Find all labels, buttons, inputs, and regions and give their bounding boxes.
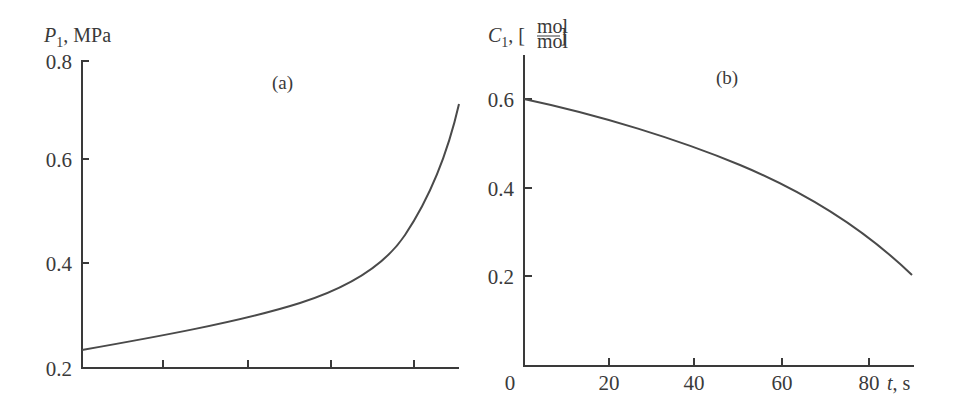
panel-b-curve-c1 [524, 99, 912, 275]
panel-a-label: (a) [272, 72, 293, 94]
panel-a-axes [82, 61, 459, 368]
panel-a-ytick-label: 0.4 [46, 252, 73, 276]
panel-b-xtick-label: 80 [859, 371, 880, 395]
panel-a: P1, MPa 0.8 0.6 0.4 0.2 (a) [43, 24, 459, 381]
panel-b-xtick-label: 60 [772, 371, 793, 395]
panel-b-x-axis-title: t, s [887, 372, 911, 394]
panel-b-xtick-label: 20 [599, 371, 620, 395]
panel-b-ytick-label: 0.4 [488, 177, 515, 201]
panel-a-ytick-label: 0.2 [46, 357, 72, 381]
panel-a-curve-p1 [82, 104, 459, 350]
panel-b-label: (b) [716, 67, 738, 89]
panel-b-xtick-label: 0 [505, 371, 516, 395]
figure: P1, MPa 0.8 0.6 0.4 0.2 (a) C1, [ mol mo… [0, 0, 954, 417]
panel-b-axes [524, 55, 914, 366]
panel-b-ytick-label: 0.6 [488, 88, 514, 112]
panel-b-y-axis-title: C1, [ [488, 24, 525, 50]
panel-b-ytick-label: 0.2 [488, 265, 514, 289]
panel-b: C1, [ mol mol ] 0.6 0.4 0.2 0 20 40 60 8… [488, 15, 914, 395]
panel-b-xtick-label: 40 [684, 371, 705, 395]
panel-a-ytick-label: 0.6 [46, 148, 72, 172]
panel-a-ytick-label: 0.8 [46, 50, 72, 74]
panel-b-unit-bracket: ] [560, 24, 567, 46]
panel-a-y-axis-title: P1, MPa [43, 24, 111, 50]
